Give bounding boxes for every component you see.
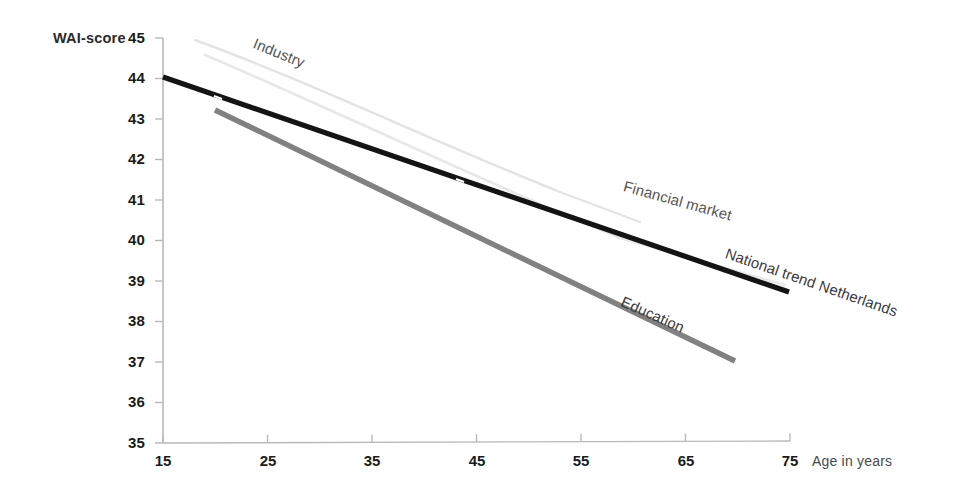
y-axis-ticks	[155, 38, 163, 443]
y-tick-label-43: 43	[118, 110, 145, 127]
y-tick-label-36: 36	[118, 393, 145, 410]
y-axis-title: WAI-score	[53, 30, 126, 46]
wai-score-chart: WAI-score 45 44 43 42 41 40 39 38 37 36 …	[0, 0, 964, 493]
y-tick-label-38: 38	[118, 312, 145, 329]
x-tick-label-75: 75	[770, 452, 810, 469]
x-tick-label-55: 55	[561, 452, 601, 469]
x-tick-label-25: 25	[248, 452, 288, 469]
y-tick-label-44: 44	[118, 69, 145, 86]
y-tick-label-35: 35	[118, 434, 145, 451]
series-line-financial-market	[205, 55, 785, 285]
x-tick-label-65: 65	[666, 452, 706, 469]
y-tick-label-42: 42	[118, 150, 145, 167]
y-tick-label-45: 45	[118, 29, 145, 46]
y-tick-label-39: 39	[118, 272, 145, 289]
series-line-national-trend-netherlands	[163, 77, 789, 292]
x-tick-label-45: 45	[457, 452, 497, 469]
x-axis-caption: Age in years	[812, 453, 892, 469]
y-tick-label-40: 40	[118, 231, 145, 248]
y-tick-label-37: 37	[118, 353, 145, 370]
x-tick-label-15: 15	[143, 452, 183, 469]
x-tick-label-35: 35	[352, 452, 392, 469]
y-tick-label-41: 41	[118, 191, 145, 208]
axis-lines	[163, 38, 790, 443]
